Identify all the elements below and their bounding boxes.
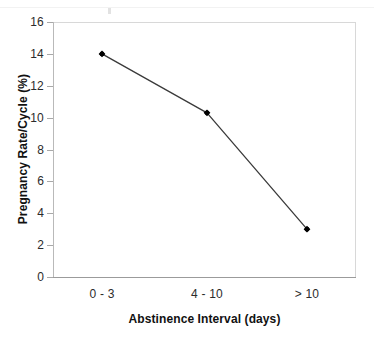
data-point-marker-core [305,227,310,232]
y-axis-title: Pregnancy Rate/Cycle (%) [16,34,30,264]
chart-figure: 0246810121416 0 - 34 - 10> 10 Pregnancy … [0,0,374,340]
x-axis-title: Abstinence Interval (days) [53,312,356,326]
data-point-marker-core [205,110,210,115]
series-line [102,54,307,229]
data-point-marker-core [100,51,105,56]
chart-data-layer [0,0,374,340]
